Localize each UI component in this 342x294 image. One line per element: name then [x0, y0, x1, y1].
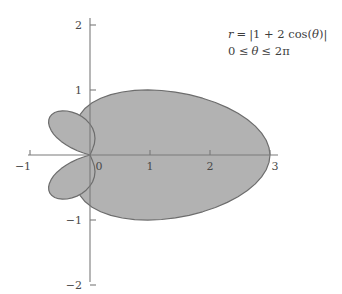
x-tick-label-neg1: −1 [15, 160, 31, 173]
x-tick-label-3: 3 [272, 160, 279, 173]
equation-line: r=|1 + 2 cos(θ)| [228, 27, 327, 42]
equation-annotation: r=|1 + 2 cos(θ)| 0 ≤θ≤ 2π [228, 27, 327, 58]
equation-body: |1 + 2 cos( [249, 27, 312, 42]
domain-theta: θ [252, 44, 259, 58]
x-tick-label-2: 2 [207, 160, 214, 173]
x-tick-label-0: 0 [96, 160, 103, 173]
polar-plot-figure: −1 0 1 2 3 2 1 −1 −2 r=|1 + 2 cos(θ)| 0 … [0, 0, 342, 294]
y-tick-label-neg2: −2 [66, 279, 82, 292]
equation-theta: θ [312, 27, 319, 41]
domain-line: 0 ≤θ≤ 2π [228, 44, 290, 58]
domain-start: 0 ≤ [228, 44, 249, 58]
equation-equals: = [237, 27, 247, 41]
y-tick-label-1: 1 [75, 84, 82, 97]
plot-canvas: −1 0 1 2 3 2 1 −1 −2 r=|1 + 2 cos(θ)| 0 … [0, 0, 342, 294]
equation-close: )| [319, 27, 327, 42]
y-tick-label-2: 2 [75, 19, 82, 32]
x-tick-label-1: 1 [147, 160, 154, 173]
y-tick-label-neg1: −1 [66, 214, 82, 227]
domain-end: ≤ 2π [262, 44, 291, 58]
equation-r: r [228, 27, 235, 41]
